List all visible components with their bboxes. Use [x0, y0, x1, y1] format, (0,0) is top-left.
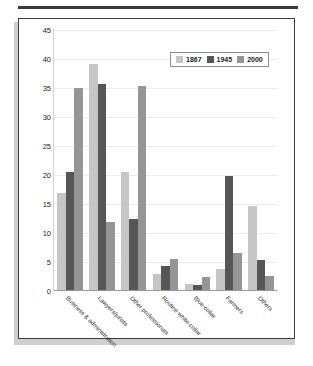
y-tick-45: 45: [43, 26, 51, 35]
bar: [121, 172, 130, 290]
y-tick-20: 20: [43, 171, 51, 180]
legend-label: 1867: [186, 56, 202, 63]
y-tick-0: 0: [47, 287, 51, 296]
x-label-cell: Other professionals: [117, 293, 149, 339]
x-label-cell: Lawyers/jurists: [85, 293, 117, 339]
bar-groups: [54, 29, 277, 290]
bar: [265, 276, 274, 291]
bar: [106, 222, 115, 290]
legend-label: 2000: [247, 56, 263, 63]
chart-legend: 186719452000: [170, 52, 269, 67]
bar-group: [118, 29, 150, 290]
x-axis-label: Farmers: [225, 295, 245, 315]
y-tick-30: 30: [43, 113, 51, 122]
bar-group: [181, 29, 213, 290]
legend-swatch-icon: [207, 56, 214, 63]
x-axis-category-labels: Business & administrationLawyers/jurists…: [53, 293, 277, 339]
x-axis-label: Others: [257, 295, 274, 312]
bar: [57, 193, 66, 290]
bar: [74, 88, 83, 290]
y-tick-10: 10: [43, 229, 51, 238]
legend-item: 1867: [176, 56, 202, 63]
bar: [89, 64, 98, 290]
y-tick-5: 5: [47, 258, 51, 267]
y-tick-40: 40: [43, 55, 51, 64]
bar: [185, 284, 194, 290]
x-label-cell: Blue-collar: [181, 293, 213, 339]
x-axis-line: [54, 290, 277, 291]
bar: [202, 277, 211, 290]
bar: [193, 285, 202, 290]
y-tick-35: 35: [43, 84, 51, 93]
bar: [233, 253, 242, 290]
chart-panel: 051015202530354045 Business & administra…: [18, 18, 295, 339]
bar-group: [245, 29, 277, 290]
bar: [225, 176, 234, 290]
legend-swatch-icon: [237, 56, 244, 63]
bar-group: [213, 29, 245, 290]
bar: [98, 84, 107, 290]
legend-swatch-icon: [176, 56, 183, 63]
bar: [170, 259, 179, 290]
x-label-cell: Routine white-collar: [149, 293, 181, 339]
legend-label: 1945: [217, 56, 233, 63]
bar: [257, 260, 266, 290]
x-label-cell: Business & administration: [53, 293, 85, 339]
x-label-cell: Farmers: [213, 293, 245, 339]
bar: [216, 269, 225, 290]
bar: [248, 206, 257, 290]
y-tick-25: 25: [43, 142, 51, 151]
y-axis-tick-labels: 051015202530354045: [25, 29, 51, 291]
bar: [138, 86, 147, 290]
bar: [66, 172, 75, 290]
plot-wrapper: 051015202530354045 Business & administra…: [19, 19, 296, 340]
y-tick-15: 15: [43, 200, 51, 209]
bar: [153, 274, 162, 290]
bar-group: [86, 29, 118, 290]
legend-item: 2000: [237, 56, 263, 63]
top-horizontal-rule: [18, 6, 298, 9]
bar: [129, 219, 138, 290]
plot-area: [53, 29, 277, 291]
bar-group: [150, 29, 182, 290]
bar: [161, 266, 170, 290]
x-label-cell: Others: [245, 293, 277, 339]
bar-group: [54, 29, 86, 290]
legend-item: 1945: [207, 56, 233, 63]
